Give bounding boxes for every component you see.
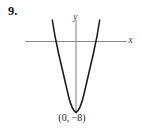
graph-canvas: x y bbox=[0, 0, 142, 129]
x-axis-label: x bbox=[128, 35, 134, 45]
vertex-coordinate-text: (0, −8) bbox=[58, 113, 85, 123]
vertex-coordinate-label: (0, −8) bbox=[0, 113, 142, 123]
parabola-figure: 9. x y (0, −8) bbox=[0, 0, 142, 129]
y-axis-label: y bbox=[72, 12, 78, 22]
